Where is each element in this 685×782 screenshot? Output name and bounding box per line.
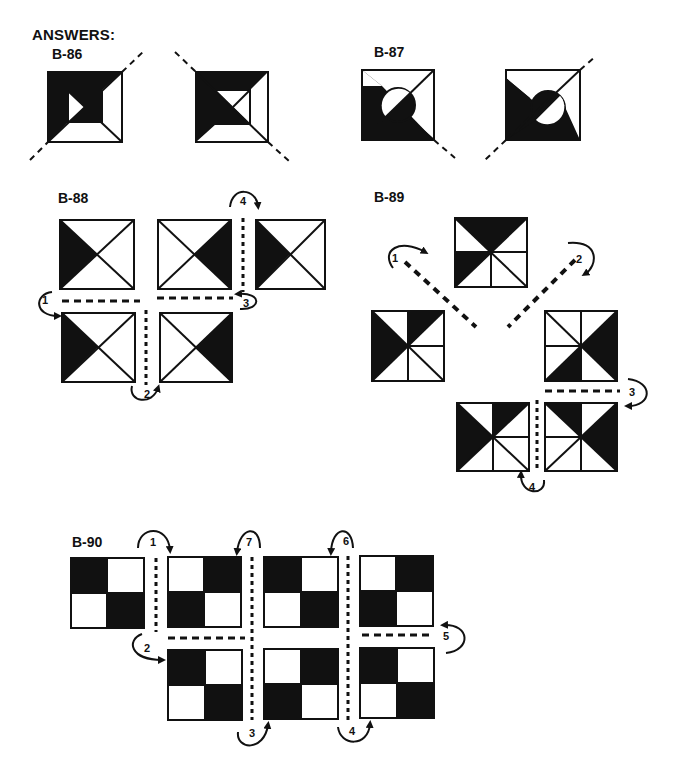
b88-tile-4 <box>62 313 135 382</box>
b89-tile-right <box>545 311 617 381</box>
b89-tile-bottom-right <box>545 403 617 471</box>
b88-step-1: 1 <box>42 294 48 306</box>
b90-step-3: 3 <box>249 727 255 739</box>
b90-tile-4 <box>360 556 433 626</box>
b90-tile-6 <box>264 649 338 719</box>
b88-step-3: 3 <box>243 297 249 309</box>
b87-figure <box>362 57 595 160</box>
b89-tile-top <box>455 218 527 287</box>
b90-tile-7 <box>360 648 434 718</box>
b90-step-1: 1 <box>150 536 156 548</box>
b90-tile-2 <box>168 557 241 627</box>
b90-step-2: 2 <box>144 642 150 654</box>
b89-figure <box>372 218 647 491</box>
b88-step-4: 4 <box>240 195 247 207</box>
b90-tile-5 <box>168 650 242 720</box>
b88-tile-1 <box>60 220 134 289</box>
b89-step-1: 1 <box>392 252 398 264</box>
b90-step-5: 5 <box>443 630 449 642</box>
b90-step-7: 7 <box>246 536 252 548</box>
b89-step-3: 3 <box>629 386 635 398</box>
b89-step-4: 4 <box>529 481 536 493</box>
b90-tile-3 <box>264 557 338 627</box>
b88-tile-2 <box>158 220 231 289</box>
b90-step-4: 4 <box>349 725 356 737</box>
b89-step-2: 2 <box>576 253 582 265</box>
answers-figure: 1 2 3 4 <box>0 0 685 782</box>
b88-figure <box>39 192 325 400</box>
b86-figure <box>30 50 290 162</box>
b90-step-6: 6 <box>343 535 349 547</box>
b89-tile-left <box>372 311 444 381</box>
b88-tile-5 <box>160 313 232 382</box>
b89-tile-bottom-left <box>457 403 529 471</box>
b88-tile-3 <box>256 220 325 289</box>
b88-step-2: 2 <box>144 388 150 400</box>
b90-figure <box>71 531 465 745</box>
b90-tile-1 <box>71 558 144 628</box>
